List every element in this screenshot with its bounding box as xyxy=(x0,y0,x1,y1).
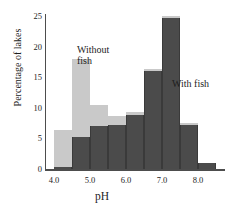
x-tick-7.0: 7.0 xyxy=(149,175,175,185)
plot-area: 0510152025 4.05.06.07.08.0 Percentage of… xyxy=(0,0,232,209)
bar-with-fish-7.0-7.5 xyxy=(162,18,180,169)
y-tick-20: 20 xyxy=(22,42,42,52)
bar-with-fish-4.5-5.0 xyxy=(72,137,90,169)
x-axis-title: pH xyxy=(95,190,109,202)
x-tick-8.0: 8.0 xyxy=(185,175,211,185)
y-tick-25: 25 xyxy=(22,11,42,21)
y-axis-line xyxy=(45,14,46,170)
bar-with-fish-7.5-8.0 xyxy=(180,125,198,169)
y-tick-10: 10 xyxy=(22,103,42,113)
bar-with-fish-6.5-7.0 xyxy=(144,71,162,169)
bar-with-fish-5.0-5.5 xyxy=(90,126,108,169)
y-axis-title: Percentage of lakes xyxy=(12,3,23,133)
series-label-without-fish: Without fish xyxy=(77,44,125,66)
x-axis-line xyxy=(45,169,225,171)
bar-with-fish-5.5-6.0 xyxy=(108,125,126,169)
y-tick-0: 0 xyxy=(22,164,42,174)
histogram-chart: 0510152025 4.05.06.07.08.0 Percentage of… xyxy=(0,0,232,209)
x-tick-4.0: 4.0 xyxy=(41,175,67,185)
bar-with-fish-6.0-6.5 xyxy=(126,115,144,169)
x-tick-6.0: 6.0 xyxy=(113,175,139,185)
y-tick-15: 15 xyxy=(22,72,42,82)
x-tick-5.0: 5.0 xyxy=(77,175,103,185)
y-tick-5: 5 xyxy=(22,133,42,143)
series-label-with-fish: With fish xyxy=(172,78,220,89)
